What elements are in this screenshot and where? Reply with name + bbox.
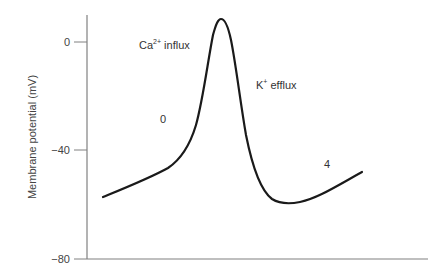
ca-influx-label: Ca2+ influx	[139, 38, 190, 51]
action-potential-chart: 0 −40 −80 Membrane potential (mV) Ca2+ i…	[0, 0, 442, 274]
y-tick-label-0: 0	[64, 36, 70, 48]
y-tick-label-minus40: −40	[51, 144, 70, 156]
y-axis-title: Membrane potential (mV)	[26, 75, 38, 199]
k-efflux-label: K+ efflux	[256, 78, 297, 91]
phase-4-label: 4	[324, 158, 330, 170]
phase-0-label: 0	[160, 113, 166, 125]
y-tick-label-minus80: −80	[51, 253, 70, 265]
